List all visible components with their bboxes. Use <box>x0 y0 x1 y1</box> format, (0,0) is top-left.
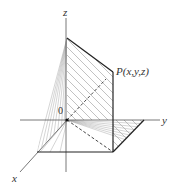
vertical-plane-hatch <box>40 0 160 190</box>
dashed-lines <box>67 79 113 152</box>
y-axis-label: y <box>161 114 167 126</box>
x-axis-label: x <box>11 172 17 184</box>
point-label: P(x,y,z) <box>115 65 149 78</box>
z-axis-label: z <box>62 6 68 18</box>
origin-label: 0 <box>58 105 63 116</box>
origin-point <box>65 118 68 121</box>
coordinate-diagram: z y x 0 P(x,y,z) <box>0 0 177 190</box>
floor-hatch <box>40 120 150 152</box>
left-face-hatch <box>37 38 67 152</box>
axes <box>20 18 160 172</box>
